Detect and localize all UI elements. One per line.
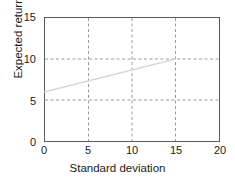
y-tick-label-15: 15: [10, 12, 36, 23]
chart-figure: Expected return 15 10 5 0 0 5 10 15 20 S…: [0, 0, 235, 185]
data-series-line: [45, 18, 219, 141]
series-polyline: [45, 59, 176, 92]
y-tick-label-5: 5: [10, 96, 36, 107]
y-tick-label-10: 10: [10, 54, 36, 65]
x-tick-label-5: 5: [75, 145, 101, 156]
x-tick-label-20: 20: [207, 145, 233, 156]
x-tick-label-15: 15: [163, 145, 189, 156]
plot-area: [44, 17, 220, 142]
x-axis-title: Standard deviation: [0, 162, 235, 174]
x-tick-label-10: 10: [119, 145, 145, 156]
x-tick-label-0: 0: [31, 145, 57, 156]
